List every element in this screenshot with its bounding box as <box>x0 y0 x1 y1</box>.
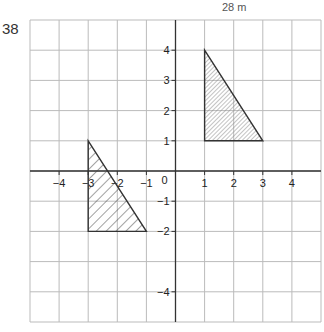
y-tick-label: 2 <box>163 105 169 117</box>
y-tick-label: 3 <box>163 74 169 86</box>
x-tick-label: 3 <box>260 177 266 189</box>
y-tick-label: −2 <box>157 225 170 237</box>
y-tick-label: −4 <box>157 286 170 298</box>
x-tick-label: 2 <box>231 177 237 189</box>
origin-label: 0 <box>161 174 167 186</box>
x-tick-label: −1 <box>140 177 153 189</box>
y-tick-label: 4 <box>163 44 169 56</box>
y-tick-label: −1 <box>157 195 170 207</box>
x-tick-label: 4 <box>289 177 295 189</box>
coordinate-grid: −4−3−2−112344321−1−2−40 <box>0 0 324 332</box>
y-tick-label: 1 <box>163 135 169 147</box>
x-tick-label: 1 <box>202 177 208 189</box>
x-tick-label: −4 <box>53 177 66 189</box>
